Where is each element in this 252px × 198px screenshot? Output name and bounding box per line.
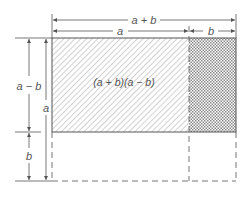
label-a-plus-b: a + b <box>132 14 157 26</box>
label-top-b: b <box>208 25 214 37</box>
side-region <box>189 38 236 132</box>
label-left-a: a <box>43 102 49 114</box>
label-top-a: a <box>117 25 123 37</box>
label-left-b: b <box>26 150 32 162</box>
label-a-minus-b: a − b <box>17 80 42 92</box>
difference-of-squares-diagram: a + b a b a − b b a (a + b)(a − b) <box>0 0 252 198</box>
area-label: (a + b)(a − b) <box>93 76 154 88</box>
